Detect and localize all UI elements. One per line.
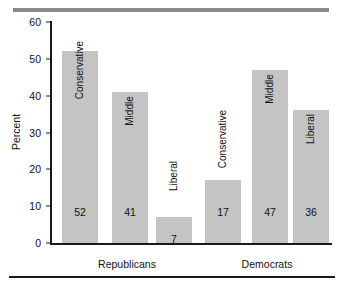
y-axis-tick-label: 30: [29, 127, 41, 138]
bar-value-label: 47: [264, 207, 276, 218]
bottom-divider-rule: [9, 276, 335, 278]
bar-category-label: Conservative: [75, 41, 85, 99]
y-axis-tick-label: 50: [29, 54, 41, 65]
x-axis-line: [50, 243, 332, 245]
top-divider-rule: [13, 8, 329, 12]
y-axis-tick-label: 60: [29, 17, 41, 28]
bar-category-label: Middle: [265, 74, 275, 103]
x-axis-group-label: Democrats: [242, 258, 293, 270]
bar-value-label: 41: [124, 207, 136, 218]
y-axis-tick-label: 10: [29, 201, 41, 212]
y-axis-tick-label: 40: [29, 90, 41, 101]
bar-category-label: Conservative: [218, 110, 228, 168]
y-axis-title: Percent: [10, 114, 22, 150]
y-axis-tick-label: 0: [35, 238, 41, 249]
x-axis-group-label: Republicans: [98, 258, 156, 270]
bar-category-label: Middle: [125, 96, 135, 125]
bar-chart-figure: Percent 0102030405060 Conservative52Midd…: [0, 0, 342, 289]
bar-value-label: 7: [171, 234, 177, 245]
bar-category-label: Liberal: [306, 114, 316, 144]
bar-value-label: 17: [217, 207, 229, 218]
bar-category-label: Liberal: [169, 161, 179, 191]
y-axis-tick-label: 20: [29, 164, 41, 175]
plot-area: Conservative52Middle41Liberal7Conservati…: [50, 22, 328, 243]
bar-value-label: 52: [74, 207, 86, 218]
bar-value-label: 36: [305, 207, 317, 218]
